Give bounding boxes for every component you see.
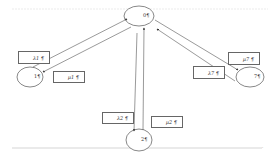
rate-box-lambda2: λ2 ¶ — [102, 112, 134, 124]
rate-label-mu1: μ1 ¶ — [68, 74, 79, 80]
rate-box-mu1: μ1 ¶ — [53, 71, 85, 83]
rate-label-lambda7: λ7 ¶ — [208, 70, 219, 76]
rate-box-lambda7: λ7 ¶ — [193, 66, 225, 79]
node-label-0: 0¶ — [143, 13, 149, 18]
end-mark: · — [262, 145, 263, 150]
edge-0-to-2 — [134, 33, 137, 131]
rate-label-mu7: μ7 ¶ — [243, 56, 254, 62]
edge-0-to-7 — [155, 20, 238, 70]
rate-label-lambda1: λ1 ¶ — [33, 55, 44, 61]
state-node-0 — [124, 6, 154, 26]
node-label-2: 2¶ — [141, 137, 147, 142]
state-diagram: · — [0, 0, 278, 157]
state-node-2 — [126, 129, 152, 151]
rate-box-lambda1: λ1 ¶ — [18, 51, 50, 64]
rate-box-mu2: μ2 ¶ — [151, 116, 183, 128]
edge-0-to-1 — [43, 27, 131, 72]
rate-label-lambda2: λ2 ¶ — [117, 115, 128, 121]
rate-label-mu2: μ2 ¶ — [166, 119, 177, 125]
edge-2-to-0 — [143, 28, 144, 130]
node-label-7: 7¶ — [254, 74, 260, 79]
rate-box-mu7: μ7 ¶ — [228, 52, 260, 65]
node-label-1: 1¶ — [34, 74, 40, 79]
